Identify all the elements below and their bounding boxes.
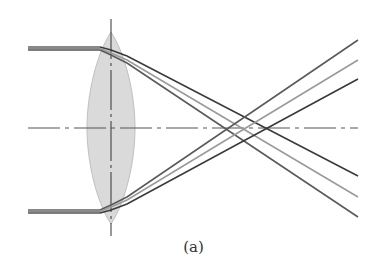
incident-beam-top xyxy=(28,47,100,50)
incident-beam-bottom xyxy=(28,210,100,213)
figure-caption: (a) xyxy=(0,238,387,256)
refracted-rays-top xyxy=(100,47,358,217)
refracted-rays-bottom xyxy=(100,40,358,213)
lens-aberration-diagram xyxy=(0,0,387,269)
